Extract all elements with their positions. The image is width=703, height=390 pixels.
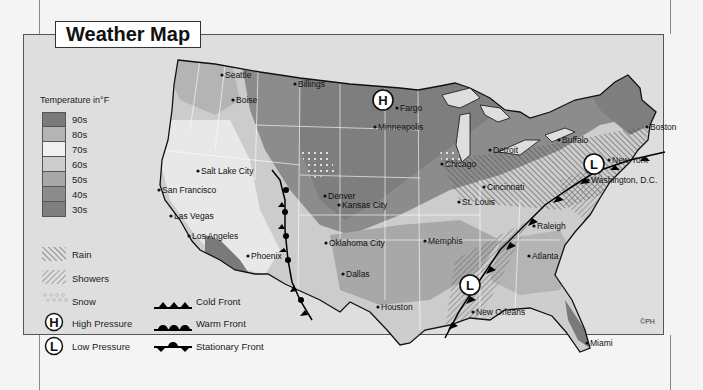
city-label: Fargo xyxy=(400,103,422,113)
legend-snow: Snow xyxy=(72,296,96,307)
city-dot xyxy=(157,188,160,191)
city-dot xyxy=(395,106,398,109)
city-dot xyxy=(557,138,560,141)
city-dot xyxy=(246,254,249,257)
city-label: Oklahoma City xyxy=(329,238,385,248)
city-dot xyxy=(337,203,340,206)
city-dot xyxy=(471,310,474,313)
swatch-label-50s: 50s xyxy=(72,174,87,185)
city-dot xyxy=(196,169,199,172)
swatch-90s xyxy=(42,112,66,127)
city-dot xyxy=(341,272,344,275)
city-label: Boise xyxy=(236,95,258,105)
svg-text:L: L xyxy=(466,278,474,293)
city-label: Atlanta xyxy=(532,251,559,261)
showers-hatch-icon xyxy=(42,270,66,284)
city-dot xyxy=(527,254,530,257)
svg-text:H: H xyxy=(49,315,58,330)
city-dot xyxy=(532,224,535,227)
city-dot xyxy=(586,178,589,181)
swatch-70s xyxy=(42,142,66,157)
swatch-label-90s: 90s xyxy=(72,114,87,125)
legend-cold-front: Cold Front xyxy=(196,296,240,307)
city-label: New Orleans xyxy=(476,307,525,317)
city-label: Chicago xyxy=(445,159,476,169)
svg-text:L: L xyxy=(590,157,598,172)
temperature-swatches xyxy=(42,112,66,217)
city-label: St. Louis xyxy=(462,197,495,207)
temperature-legend-title: Temperature in°F xyxy=(40,95,109,105)
city-dot xyxy=(293,82,296,85)
city-label: Phoenix xyxy=(251,251,282,261)
low-pressure-icon: L xyxy=(44,336,64,356)
swatch-label-30s: 30s xyxy=(72,204,87,215)
legend-stationary-front: Stationary Front xyxy=(196,341,264,352)
city-dot xyxy=(482,185,485,188)
city-dot xyxy=(440,162,443,165)
swatch-label-70s: 70s xyxy=(72,144,87,155)
city-label: Miami xyxy=(590,338,613,348)
city-dot xyxy=(220,73,223,76)
city-dot xyxy=(324,241,327,244)
city-label: Kansas City xyxy=(342,200,388,210)
city-label: Houston xyxy=(381,302,413,312)
legend-low-pressure: Low Pressure xyxy=(72,341,130,352)
swatch-40s xyxy=(42,187,66,202)
city-dot xyxy=(607,158,610,161)
swatch-50s xyxy=(42,172,66,187)
city-dot xyxy=(231,98,234,101)
rain-hatch-icon xyxy=(42,247,66,261)
city-dot xyxy=(645,125,648,128)
swatch-80s xyxy=(42,127,66,142)
swatch-label-60s: 60s xyxy=(72,159,87,170)
city-label: Washington, D.C. xyxy=(591,175,657,185)
city-label: Minneapolis xyxy=(378,122,423,132)
city-label: Raleigh xyxy=(537,221,566,231)
legend-rain: Rain xyxy=(72,249,92,260)
svg-text:H: H xyxy=(378,93,387,108)
swatch-label-80s: 80s xyxy=(72,129,87,140)
city-label: Dallas xyxy=(346,269,370,279)
city-label: Boston xyxy=(650,122,677,132)
legend-warm-front: Warm Front xyxy=(196,318,246,329)
city-label: New York xyxy=(612,155,649,165)
city-dot xyxy=(457,200,460,203)
high-pressure-icon: H xyxy=(44,312,64,332)
copyright: ©PH xyxy=(640,318,655,325)
swatch-60s xyxy=(42,157,66,172)
cold-front-icon xyxy=(154,300,192,310)
city-label: Seattle xyxy=(225,70,252,80)
city-label: Los Angeles xyxy=(192,231,238,241)
city-dot xyxy=(187,234,190,237)
snow-dots-icon xyxy=(42,292,68,304)
city-label: Cincinnati xyxy=(487,182,524,192)
city-dot xyxy=(323,194,326,197)
city-label: Billings xyxy=(298,79,325,89)
city-dot xyxy=(585,341,588,344)
swatch-30s xyxy=(42,202,66,217)
city-dot xyxy=(488,148,491,151)
us-map: H L L SeattleBillingsFargoBoiseMinneapol… xyxy=(0,0,703,390)
city-label: Memphis xyxy=(428,236,462,246)
legend-showers: Showers xyxy=(72,273,109,284)
swatch-label-40s: 40s xyxy=(72,189,87,200)
city-label: Las Vegas xyxy=(174,211,214,221)
city-dot xyxy=(423,239,426,242)
city-label: San Francisco xyxy=(162,185,217,195)
city-dot xyxy=(169,214,172,217)
city-label: Detroit xyxy=(493,145,519,155)
city-dot xyxy=(376,305,379,308)
city-label: Buffalo xyxy=(562,135,589,145)
city-dot xyxy=(373,125,376,128)
svg-text:L: L xyxy=(50,339,58,354)
stationary-front-icon xyxy=(154,340,192,354)
city-label: Salt Lake City xyxy=(201,166,254,176)
map-title: Weather Map xyxy=(55,21,201,48)
legend-high-pressure: High Pressure xyxy=(72,318,132,329)
warm-front-icon xyxy=(154,322,192,332)
